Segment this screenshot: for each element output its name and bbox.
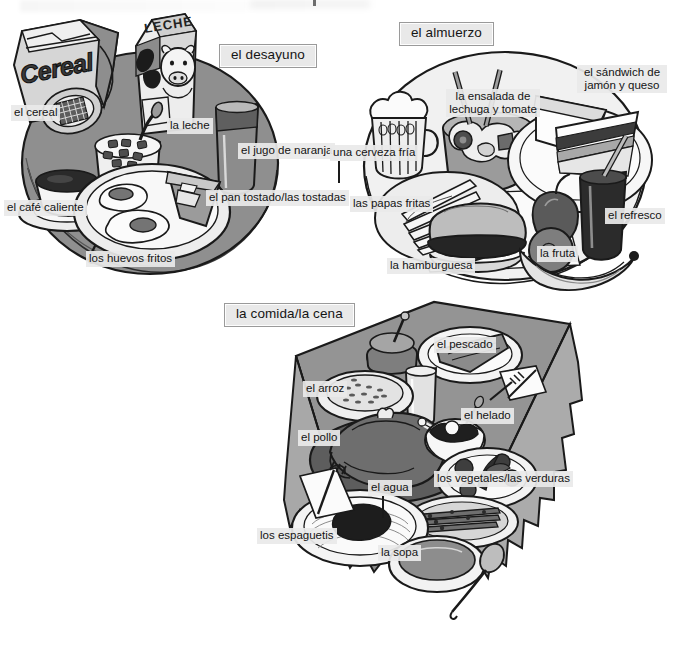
leader-line-agua [382, 496, 384, 518]
label-line-1: el sándwich de [584, 66, 660, 78]
label-el-helado: el helado [461, 408, 514, 424]
svg-text:LECHE: LECHE [143, 13, 194, 35]
label-el-cereal: el cereal [11, 105, 60, 121]
label-line-1: la ensalada de [456, 90, 531, 102]
napkin-and-fork-left [300, 462, 354, 518]
milk-carton: LECHE [136, 13, 196, 134]
label-los-huevos-fritos: los huevos fritos [86, 251, 175, 267]
section-title-dinner: la comida/la cena [224, 303, 355, 327]
svg-text:Cereal: Cereal [18, 47, 97, 89]
section-title-lunch: el almuerzo [399, 22, 494, 46]
label-el-pollo: el pollo [298, 430, 340, 446]
leader-line-cerveza [338, 161, 340, 183]
fork [490, 372, 524, 400]
label-los-vegetales-las-verduras: los vegetales/las verduras [434, 471, 573, 487]
label-el-sandwich-de-jamon-y-queso: el sándwich de jamón y queso [577, 65, 667, 93]
label-la-fruta: la fruta [537, 246, 578, 262]
label-la-hamburguesa: la hamburguesa [387, 258, 475, 274]
label-el-jugo-de-naranja: el jugo de naranja [238, 143, 335, 159]
label-el-pescado: el pescado [434, 337, 496, 353]
label-los-espaguetis: los espaguetis [257, 528, 337, 544]
label-el-refresco: el refresco [605, 208, 665, 224]
apple [533, 174, 578, 246]
cereal-box: Cereal [14, 20, 118, 140]
fried-eggs-plate [74, 164, 230, 260]
label-la-sopa: la sopa [378, 545, 421, 561]
spoon [451, 540, 509, 619]
label-el-pan-tostado-las-tostadas: el pan tostado/las tostadas [206, 190, 349, 206]
cow-illustration [136, 46, 195, 98]
beer-mug [370, 92, 437, 179]
label-el-cafe-caliente: el café caliente [4, 200, 87, 216]
ice-cream-bowl [425, 395, 485, 462]
scan-artifact-tick [313, 0, 316, 6]
french-fries [375, 172, 519, 264]
label-la-ensalada-de-lechuga-y-tomate: la ensalada de lechuga y tomate [446, 89, 540, 117]
soda-glass-straw [580, 136, 626, 260]
label-el-agua: el agua [368, 480, 412, 496]
cereal-bowl-spoon [95, 101, 164, 192]
label-line-2: lechuga y tomate [449, 103, 537, 115]
water-glass [406, 366, 436, 427]
label-las-papas-fritas: las papas fritas [350, 196, 433, 212]
section-title-breakfast: el desayuno [219, 44, 317, 68]
label-una-cerveza-fria: una cerveza fría [330, 145, 418, 161]
label-line-2: jamón y queso [585, 79, 660, 91]
label-el-arroz: el arroz [303, 381, 347, 397]
label-la-leche: la leche [167, 118, 213, 134]
vocabulary-illustration-page: Cereal LECHE [0, 0, 676, 646]
asparagus-plate [406, 496, 518, 548]
breakfast-table-group [22, 52, 278, 274]
wine-carafe [367, 312, 417, 374]
fork [318, 462, 346, 514]
napkin-and-cutlery-right [490, 366, 546, 400]
fish-fillet-plate [418, 327, 522, 383]
scan-artifact-secondary [250, 0, 370, 8]
